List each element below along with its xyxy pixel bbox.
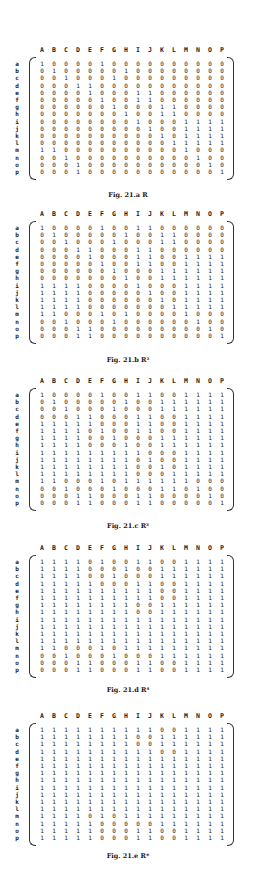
matrix-cell: 1 [36,820,48,827]
column-header: J [144,377,156,386]
matrix-cell: 1 [180,608,192,615]
matrix-cell: 1 [144,623,156,630]
matrix-cell: 1 [156,769,168,776]
matrix-cell: 0 [168,580,180,587]
row-label: p [13,168,21,175]
matrix-cell: 1 [120,644,132,651]
matrix-cell: 1 [144,630,156,637]
matrix-cell: 0 [60,260,72,267]
matrix-cell: 0 [96,132,108,139]
matrix-row: j1111000001001111 [0,289,256,296]
matrix-cell: 0 [48,125,60,132]
matrix-cell: 1 [60,565,72,572]
row-label: e [13,755,21,762]
matrix-cell: 1 [144,637,156,644]
row-label: p [13,666,21,673]
matrix-cell: 0 [48,132,60,139]
matrix-cell: 0 [120,139,132,146]
matrix-cell: 0 [72,644,84,651]
column-header: I [132,544,144,553]
matrix-cell: 1 [84,449,96,456]
row-label: b [13,231,21,238]
matrix-cell: 1 [84,748,96,755]
matrix-cell: 0 [168,146,180,153]
matrix-cell: 1 [192,118,204,125]
matrix-cell: 0 [36,659,48,666]
matrix-cell: 1 [132,413,144,420]
matrix-cell: 0 [120,125,132,132]
matrix-cell: 1 [120,733,132,740]
row-label: f [13,594,21,601]
matrix-cell: 1 [72,587,84,594]
matrix-cell: 0 [84,565,96,572]
matrix-cell: 1 [84,608,96,615]
matrix-cell: 0 [144,325,156,332]
matrix-cell: 1 [96,224,108,231]
matrix-row: h0000000100110000 [0,110,256,117]
matrix-cell: 0 [36,125,48,132]
column-header: P [216,544,228,553]
matrix-cell: 1 [204,762,216,769]
matrix-cell: 1 [72,492,84,499]
matrix-cell: 1 [60,601,72,608]
matrix-row: i1111111111111111 [0,616,256,623]
matrix-cell: 1 [180,289,192,296]
matrix-cell: 0 [192,89,204,96]
matrix-cell: 1 [48,776,60,783]
column-header-row: ABCDEFGHIJKLMNOP [0,544,256,553]
matrix-cell: 0 [72,231,84,238]
matrix-cell: 0 [72,103,84,110]
matrix-cell: 0 [156,253,168,260]
matrix-cell: 0 [84,132,96,139]
matrix-cell: 0 [156,125,168,132]
matrix-cell: 1 [84,798,96,805]
matrix-row: m1100010100001000 [0,310,256,317]
matrix-cell: 1 [132,726,144,733]
matrix-cell: 1 [84,601,96,608]
matrix-cell: 1 [204,303,216,310]
matrix-cell: 1 [204,260,216,267]
matrix-cell: 1 [96,594,108,601]
matrix-cell: 0 [132,231,144,238]
matrix-cell: 1 [48,303,60,310]
matrix-cell: 1 [132,812,144,819]
matrix-cell: 0 [60,492,72,499]
matrix-cell: 0 [96,405,108,412]
matrix-row: h1111111100111111 [0,608,256,615]
matrix-cell: 1 [60,637,72,644]
matrix-cell: 1 [120,608,132,615]
matrix-cell: 0 [156,139,168,146]
matrix-cell: 1 [144,748,156,755]
matrix-cell: 1 [192,733,204,740]
matrix-cell: 0 [192,499,204,506]
row-label: k [13,296,21,303]
matrix-cell: 1 [132,791,144,798]
matrix-row: a1111111111001111 [0,726,256,733]
column-header: G [108,712,120,721]
matrix-cell: 1 [48,282,60,289]
matrix-cell: 0 [156,168,168,175]
column-header: K [156,377,168,386]
matrix-cell: 0 [96,572,108,579]
row-label: l [13,805,21,812]
matrix-cell: 0 [132,310,144,317]
matrix-cell: 1 [120,616,132,623]
matrix-cell: 0 [180,60,192,67]
matrix-cell: 0 [132,456,144,463]
matrix-cell: 0 [60,118,72,125]
matrix-cell: 1 [36,441,48,448]
matrix-cell: 1 [120,594,132,601]
matrix-cell: 1 [120,740,132,747]
matrix-cell: 0 [60,132,72,139]
matrix-cell: 1 [36,733,48,740]
matrix-cell: 1 [156,630,168,637]
matrix-cell: 1 [168,608,180,615]
matrix-cell: 1 [156,463,168,470]
matrix-cell: 0 [72,139,84,146]
matrix-cell: 1 [120,110,132,117]
matrix-cell: 0 [120,118,132,125]
matrix-cell: 0 [168,289,180,296]
matrix-cell: 0 [144,67,156,74]
matrix-cell: 1 [36,812,48,819]
matrix-cell: 1 [96,733,108,740]
